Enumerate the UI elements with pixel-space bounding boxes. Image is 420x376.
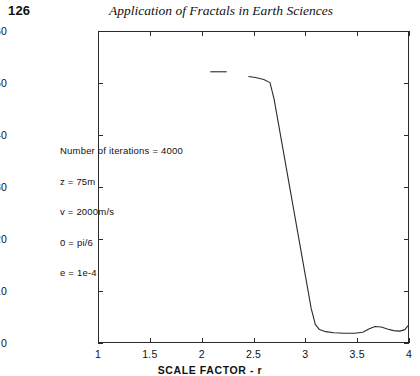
- x-tick: [98, 338, 99, 343]
- x-tick: [305, 338, 306, 343]
- x-tick: [254, 338, 255, 343]
- x-tick: [409, 338, 410, 343]
- x-tick-top: [98, 31, 99, 36]
- y-tick-label: 50: [0, 77, 7, 89]
- x-tick-top: [202, 31, 203, 36]
- y-tick-label: 60: [0, 25, 7, 37]
- y-tick-label: 20: [0, 233, 7, 245]
- y-tick-right: [404, 239, 409, 240]
- annotation-block: Number of iterations = 4000z = 75mv = 20…: [60, 146, 183, 278]
- x-tick: [150, 338, 151, 343]
- x-tick-label: 3.5: [337, 348, 377, 360]
- y-tick-label: 30: [0, 181, 7, 193]
- y-tick: [98, 83, 103, 84]
- annotation-line: 0 = pi/6: [60, 238, 183, 248]
- y-tick-right: [404, 291, 409, 292]
- x-tick-label: 2.5: [234, 348, 274, 360]
- x-tick-label: 1.5: [130, 348, 170, 360]
- annotation-line: Number of iterations = 4000: [60, 146, 183, 156]
- y-tick: [98, 135, 103, 136]
- x-tick-label: 2: [182, 348, 222, 360]
- y-tick-right: [404, 343, 409, 344]
- x-tick-top: [254, 31, 255, 36]
- y-tick-right: [404, 83, 409, 84]
- running-head: 126 Application of Fractals in Earth Sci…: [0, 0, 420, 26]
- annotation-line: z = 75m: [60, 177, 183, 187]
- y-tick-label: 40: [0, 129, 7, 141]
- series-line-1: [248, 76, 408, 333]
- x-axis-title: SCALE FACTOR - r: [0, 364, 420, 376]
- x-tick-top: [150, 31, 151, 36]
- page: 126 Application of Fractals in Earth Sci…: [0, 0, 420, 376]
- y-tick-right: [404, 135, 409, 136]
- x-tick-label: 1: [78, 348, 118, 360]
- y-tick: [98, 291, 103, 292]
- x-tick-label: 4: [389, 348, 420, 360]
- x-tick-top: [357, 31, 358, 36]
- running-title: Application of Fractals in Earth Science…: [0, 3, 420, 19]
- x-tick: [202, 338, 203, 343]
- annotation-line: e = 1e-4: [60, 268, 183, 278]
- x-tick: [357, 338, 358, 343]
- y-tick-label: 10: [0, 285, 7, 297]
- x-tick-top: [305, 31, 306, 36]
- y-tick: [98, 343, 103, 344]
- x-tick-top: [409, 31, 410, 36]
- y-tick-right: [404, 187, 409, 188]
- annotation-line: v = 2000m/s: [60, 207, 183, 217]
- figure: 0102030405060 11.522.533.54 LOSS OF INFO…: [0, 26, 420, 376]
- x-tick-label: 3: [285, 348, 325, 360]
- y-tick-label: 0: [0, 337, 7, 349]
